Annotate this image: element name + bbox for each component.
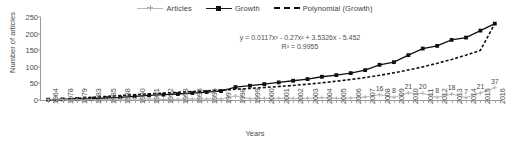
data-point-growth [262, 82, 266, 86]
x-axis-tick-mark [452, 100, 453, 103]
r-squared-text: R² = 0.9955 [175, 42, 425, 51]
data-point-growth [406, 53, 410, 57]
x-axis-tick-label: 2008 [383, 88, 392, 104]
x-axis-tick-label: 2010 [411, 88, 420, 104]
data-label-articles: 8 [435, 87, 439, 94]
data-point-articles [493, 86, 497, 90]
data-point-growth [392, 60, 396, 64]
x-axis-tick-mark [365, 100, 366, 103]
x-axis-tick-mark [149, 100, 150, 103]
x-axis-tick-label: 1993 [181, 88, 190, 104]
data-point-articles [450, 92, 454, 96]
x-axis-tick-label: 2015 [483, 88, 492, 104]
x-axis-tick-label: 1996 [210, 88, 219, 104]
data-label-articles: 8 [392, 87, 396, 94]
data-point-growth [248, 84, 252, 88]
x-axis-tick-label: 1995 [195, 88, 204, 104]
data-point-articles [478, 91, 482, 95]
data-point-growth [147, 93, 151, 97]
data-point-articles [406, 91, 410, 95]
x-axis-tick-mark [91, 100, 92, 103]
data-label-articles: 18 [448, 84, 456, 91]
x-axis-tick-mark [437, 100, 438, 103]
x-axis-tick-mark [394, 100, 395, 103]
data-point-growth [334, 73, 338, 77]
data-point-articles [233, 94, 237, 98]
x-axis-tick-label: 1988 [123, 88, 132, 104]
x-axis-tick-label: 1979 [80, 88, 89, 104]
x-axis-tick-label: 2004 [325, 88, 334, 104]
data-point-growth [291, 79, 295, 83]
x-axis-tick-mark [163, 100, 164, 103]
x-axis-tick-mark [106, 100, 107, 103]
x-axis-tick-mark [423, 100, 424, 103]
x-axis-tick-mark [135, 100, 136, 103]
x-axis-tick-mark [495, 100, 496, 103]
x-axis-tick-label: 1999 [253, 88, 262, 104]
x-axis-tick-mark [235, 100, 236, 103]
x-axis-tick-label: 1983 [94, 88, 103, 104]
x-axis-tick-mark [480, 100, 481, 103]
x-axis-tick-label: 1985 [109, 88, 118, 104]
data-point-growth [277, 81, 281, 85]
data-point-growth [349, 71, 353, 75]
x-axis-tick-label: 2009 [397, 88, 406, 104]
x-axis-tick-mark [207, 100, 208, 103]
series-layer [0, 0, 510, 141]
data-point-growth [378, 63, 382, 67]
data-point-growth [435, 44, 439, 48]
x-axis-tick-mark [322, 100, 323, 103]
x-axis-tick-label: 2016 [498, 88, 507, 104]
data-point-articles [363, 95, 367, 99]
x-axis-tick-label: 2005 [339, 88, 348, 104]
x-axis-tick-label: 1991 [152, 88, 161, 104]
x-axis-tick-label: 1992 [166, 88, 175, 104]
x-axis-tick-mark [48, 100, 49, 103]
x-axis-tick-mark [221, 100, 222, 103]
x-axis-tick-mark [120, 100, 121, 103]
data-point-growth [306, 77, 310, 81]
data-point-growth [450, 38, 454, 42]
data-point-growth [320, 75, 324, 79]
data-label-articles: 21 [404, 83, 412, 90]
data-label-articles: 21 [476, 83, 484, 90]
x-axis-tick-mark [380, 100, 381, 103]
x-axis-tick-mark [351, 100, 352, 103]
x-axis-tick-mark [293, 100, 294, 103]
data-point-articles [435, 95, 439, 99]
x-axis-tick-mark [63, 100, 64, 103]
data-point-growth [205, 90, 209, 94]
trendline-equation-annotation: y = 0.0117x³ - 0.27x² + 3.5326x - 5.452 … [175, 33, 425, 51]
x-axis-tick-label: 2003 [311, 88, 320, 104]
x-axis-tick-mark [336, 100, 337, 103]
data-point-growth [464, 36, 468, 40]
x-axis-tick-label: 2001 [282, 88, 291, 104]
data-point-growth [363, 68, 367, 72]
data-label-articles: 16 [376, 85, 384, 92]
data-point-growth [162, 93, 166, 97]
x-axis-tick-label: 2011 [426, 89, 435, 104]
x-axis-tick-mark [192, 100, 193, 103]
data-point-growth [219, 89, 223, 93]
x-axis-tick-mark [250, 100, 251, 103]
data-label-articles: 20 [419, 83, 427, 90]
data-point-articles [392, 95, 396, 99]
x-axis-tick-mark [77, 100, 78, 103]
x-axis-tick-label: 1978 [66, 88, 75, 104]
data-point-articles [421, 91, 425, 95]
data-label-articles: 37 [491, 78, 499, 85]
data-point-articles [378, 93, 382, 97]
x-axis-tick-label: 1998 [238, 88, 247, 104]
x-axis-tick-label: 1990 [138, 88, 147, 104]
x-axis-tick-mark [466, 100, 467, 103]
data-point-growth [176, 92, 180, 96]
x-axis-tick-mark [308, 100, 309, 103]
x-axis-tick-label: 1997 [224, 88, 233, 104]
data-point-growth [493, 22, 497, 26]
x-axis-tick-label: 2006 [354, 88, 363, 104]
x-axis-tick-mark [178, 100, 179, 103]
x-axis-tick-label: 2013 [455, 88, 464, 104]
data-point-growth [478, 29, 482, 33]
article-growth-line-chart: Articles Growth Polynomial (Growth) Numb… [0, 0, 510, 141]
data-point-growth [234, 85, 238, 89]
